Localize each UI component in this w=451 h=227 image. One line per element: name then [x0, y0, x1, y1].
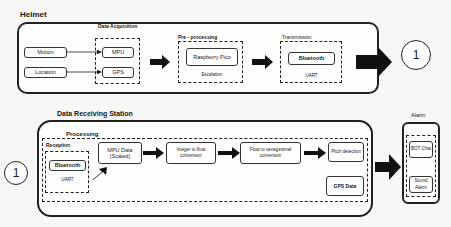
block-arrow-icon	[252, 55, 273, 69]
block-arrow-icon	[375, 154, 401, 180]
diagonal-arrow-icon	[92, 167, 107, 180]
block-arrow-icon	[218, 147, 240, 159]
block-arrow-icon	[150, 55, 170, 69]
block-arrow-icon	[304, 147, 326, 159]
block-arrow-icon	[356, 47, 392, 77]
arrow-layer	[0, 0, 451, 227]
block-arrow-icon	[143, 147, 164, 159]
